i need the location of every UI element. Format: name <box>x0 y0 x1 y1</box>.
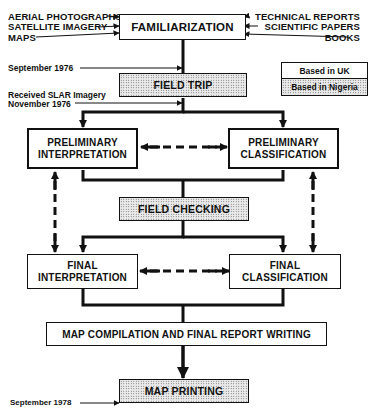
step-map-printing: MAP PRINTING <box>119 379 249 403</box>
step-field-trip-label: FIELD TRIP <box>153 80 212 91</box>
input-scientific-papers: SCIENTIFIC PAPERS <box>265 22 360 32</box>
step-preliminary-classification: PRELIMINARY CLASSIFICATION <box>228 128 339 169</box>
step-familiarization: FAMILIARIZATION <box>119 14 246 40</box>
step-final-interpretation-line2: INTERPRETATION <box>38 272 127 284</box>
step-familiarization-label: FAMILIARIZATION <box>131 22 233 33</box>
legend: Based in UK Based in Nigeria <box>281 62 368 96</box>
step-preliminary-interpretation: PRELIMINARY INTERPRETATION <box>27 128 138 169</box>
step-map-printing-label: MAP PRINTING <box>145 386 224 397</box>
step-preliminary-interpretation-line2: INTERPRETATION <box>38 149 127 161</box>
step-final-interpretation-line1: FINAL <box>38 260 127 272</box>
step-final-interpretation: FINAL INTERPRETATION <box>27 254 138 289</box>
step-field-checking: FIELD CHECKING <box>119 197 249 221</box>
step-preliminary-classification-line1: PRELIMINARY <box>241 137 327 149</box>
annotation-september-1978: September 1978 <box>10 399 71 407</box>
legend-uk: Based in UK <box>281 62 368 79</box>
step-preliminary-classification-line2: CLASSIFICATION <box>241 149 327 161</box>
step-map-compilation: MAP COMPILATION AND FINAL REPORT WRITING <box>46 322 327 346</box>
step-final-classification-line2: CLASSIFICATION <box>242 272 328 284</box>
annotation-september-1976: September 1976 <box>8 64 73 73</box>
step-final-classification-line1: FINAL <box>242 260 328 272</box>
step-map-compilation-label: MAP COMPILATION AND FINAL REPORT WRITING <box>62 329 311 340</box>
step-field-trip: FIELD TRIP <box>119 73 247 97</box>
input-books: BOOKS <box>325 33 360 43</box>
input-satellite-imagery: SATELLITE IMAGERY <box>8 22 107 32</box>
annotation-november-1976: November 1976 <box>8 100 71 109</box>
legend-nigeria: Based in Nigeria <box>281 79 368 96</box>
step-preliminary-interpretation-line1: PRELIMINARY <box>38 137 127 149</box>
input-maps: MAPS <box>8 33 36 43</box>
step-final-classification: FINAL CLASSIFICATION <box>229 254 341 289</box>
step-field-checking-label: FIELD CHECKING <box>138 204 230 215</box>
